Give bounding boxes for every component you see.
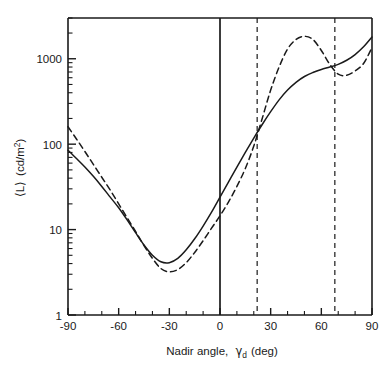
y-axis-title-symbol: ⟨L⟩ [14, 181, 26, 197]
y-axis-unit-close: ) [14, 139, 26, 143]
x-axis-title-main: Nadir angle, [166, 345, 228, 357]
svg-text:⟨L⟩(cd/m2): ⟨L⟩(cd/m2) [12, 139, 26, 198]
y-tick-label: 100 [43, 139, 62, 151]
x-axis-unit: (deg) [251, 345, 278, 357]
svg-text:Nadir angle, γd(deg): Nadir angle, γd(deg) [166, 344, 278, 360]
x-tick-label: 60 [315, 320, 328, 332]
y-axis-unit-main: (cd/m [14, 147, 26, 176]
line-chart: -90-60-300306090 1101001000 Nadir angle,… [0, 0, 388, 371]
gamma-subscript: d [242, 350, 247, 360]
chart-figure: -90-60-300306090 1101001000 Nadir angle,… [0, 0, 388, 371]
x-tick-label: -60 [110, 320, 127, 332]
x-tick-label: 90 [366, 320, 379, 332]
y-tick-label: 10 [49, 224, 62, 236]
y-tick-labels: 1101001000 [36, 53, 62, 321]
x-tick-label: 0 [217, 320, 223, 332]
y-axis-ticks [68, 18, 76, 315]
x-tick-label: -30 [161, 320, 178, 332]
y-tick-label: 1000 [36, 53, 62, 65]
x-tick-label: -90 [60, 320, 77, 332]
x-axis-title: Nadir angle, γd(deg) [166, 344, 278, 360]
y-axis-title: ⟨L⟩(cd/m2) [12, 139, 26, 198]
x-tick-labels: -90-60-300306090 [60, 320, 379, 332]
x-tick-label: 30 [264, 320, 277, 332]
y-tick-label: 1 [56, 310, 62, 322]
